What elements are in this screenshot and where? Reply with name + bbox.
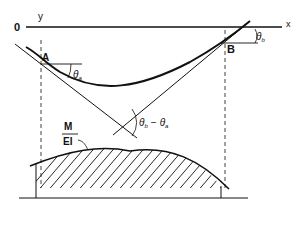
theta-b-label: θb bbox=[256, 31, 265, 43]
moment-area-hatching bbox=[20, 130, 270, 200]
moment-numerator: M bbox=[64, 121, 72, 132]
tangent-line-b bbox=[113, 21, 250, 135]
point-a-label: A bbox=[42, 52, 49, 63]
theta-difference-label: θb−θa bbox=[139, 117, 169, 129]
x-axis-label: x bbox=[286, 19, 291, 29]
moment-curve bbox=[30, 149, 229, 189]
deflection-curve bbox=[26, 21, 250, 86]
point-b-label: B bbox=[227, 43, 235, 55]
moment-area-diagram: 0 x y A B θa θb θb−θa bbox=[0, 0, 292, 228]
tangent-line-a bbox=[15, 44, 137, 138]
theta-a-label: θa bbox=[73, 69, 82, 81]
y-axis-label: y bbox=[38, 11, 43, 22]
origin-label: 0 bbox=[14, 21, 20, 33]
moment-denominator: EI bbox=[63, 136, 73, 147]
leader-line bbox=[78, 140, 88, 150]
angle-arc-diff bbox=[132, 109, 137, 136]
